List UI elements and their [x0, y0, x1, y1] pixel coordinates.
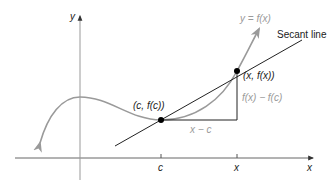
- point-x-fx: [234, 68, 240, 74]
- vertical-difference-label: f(x) − f(c): [242, 93, 282, 103]
- y-axis-label: y: [70, 12, 75, 22]
- horizontal-difference-label: x − c: [190, 125, 211, 135]
- x-axis-label: x: [307, 163, 312, 173]
- curve-label: y = f(x): [240, 14, 271, 24]
- point-c-fc: [158, 117, 164, 123]
- secant-line-label: Secant line: [277, 30, 326, 40]
- tick-label-c: c: [158, 163, 163, 173]
- point-label-c-fc: (c, f(c)): [133, 101, 165, 111]
- diagram-canvas: [0, 0, 333, 180]
- point-label-x-fx: (x, f(x)): [243, 71, 275, 81]
- secant-line-diagram: y x c x y = f(x) Secant line (c, f(c)) (…: [0, 0, 333, 180]
- tick-label-x: x: [234, 163, 239, 173]
